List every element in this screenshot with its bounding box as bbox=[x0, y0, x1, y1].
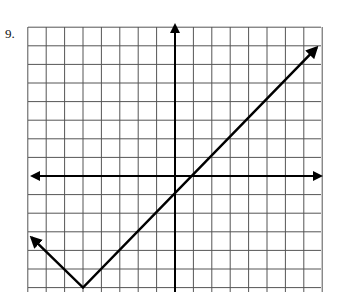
coordinate-graph bbox=[0, 0, 337, 292]
